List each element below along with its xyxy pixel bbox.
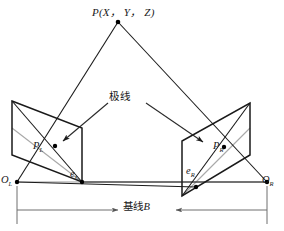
point-world-P	[116, 20, 121, 25]
label-right-image-point: PR	[213, 141, 223, 154]
label-PR-subscript: R	[219, 146, 223, 153]
diagram-canvas	[0, 0, 284, 231]
label-left-optical-center: OL	[1, 175, 12, 188]
point-left-center-OL	[15, 180, 19, 184]
label-epipolar-line: 极线	[109, 91, 130, 102]
line-leftcenter-to-right-epipole	[17, 182, 196, 187]
label-eR-subscript: R	[191, 171, 195, 178]
arrow-down-right-icon	[146, 103, 203, 142]
label-OR-subscript: R	[270, 180, 274, 187]
label-left-epipole: eL	[70, 169, 78, 182]
epipolar-lines-group	[12, 128, 250, 196]
label-world-point-P: P(X， Y， Z)	[92, 7, 155, 18]
label-baseline-symbol: B	[144, 201, 151, 212]
label-OL-base: O	[1, 174, 9, 185]
label-right-epipole: eR	[186, 166, 195, 179]
label-left-image-point: PL	[33, 141, 43, 154]
point-left-epipole-eL	[80, 180, 84, 184]
node-points-group	[15, 20, 269, 190]
label-baseline-text: 基线	[123, 200, 144, 212]
label-eL-subscript: L	[75, 174, 79, 181]
label-baseline: 基线B	[123, 201, 150, 213]
label-right-optical-center: OR	[262, 175, 274, 188]
epipole-connection-group	[17, 182, 267, 187]
point-left-image-PL	[53, 144, 57, 148]
point-right-epipole-eR	[194, 185, 198, 189]
ray-P-to-left-center	[17, 22, 118, 182]
epipolar-geometry-figure: P(X， Y， Z) 极线 基线B PL PR eL eR OL OR	[0, 0, 284, 231]
arrow-down-left-icon	[63, 103, 108, 141]
epipolar-label-leaders	[63, 103, 203, 142]
label-OR-base: O	[262, 174, 270, 185]
projection-rays-group	[17, 22, 267, 182]
label-OL-subscript: L	[9, 180, 13, 187]
ray-P-to-right-center	[118, 22, 267, 182]
label-PL-subscript: L	[39, 146, 43, 153]
